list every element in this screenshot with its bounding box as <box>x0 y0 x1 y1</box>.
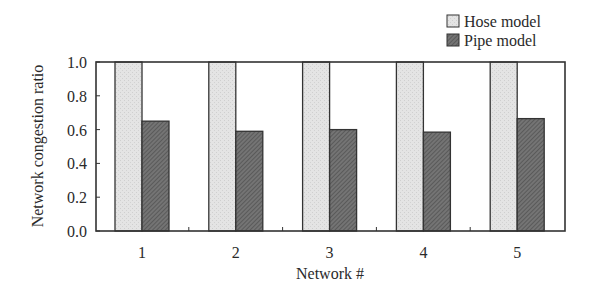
pipe-bar-4 <box>423 132 450 231</box>
pipe-bar-5 <box>517 119 544 231</box>
y-tick-label: 0.6 <box>67 122 87 139</box>
y-axis-label: Network congestion ratio <box>29 65 47 228</box>
x-tick-label: 4 <box>419 244 427 261</box>
y-tick-label: 1.0 <box>67 54 87 71</box>
y-tick-label: 0.4 <box>67 155 87 172</box>
hose-bar-1 <box>115 62 142 231</box>
hose-bar-3 <box>303 62 330 231</box>
y-axis-ticks: 0.00.20.40.60.81.0 <box>67 54 100 240</box>
legend: Hose modelPipe model <box>447 13 541 50</box>
pipe-bar-2 <box>236 131 263 231</box>
x-axis-label: Network # <box>296 265 364 282</box>
x-tick-label: 1 <box>138 244 146 261</box>
pipe-bar-3 <box>330 130 357 231</box>
legend-label: Pipe model <box>464 32 537 50</box>
pipe-bar-1 <box>142 121 169 231</box>
legend-label: Hose model <box>464 13 541 30</box>
hose-bar-5 <box>490 62 517 231</box>
x-axis-ticks: 12345 <box>138 227 521 261</box>
bars <box>115 62 544 231</box>
hose-legend-swatch <box>447 15 459 27</box>
bar-chart: 0.00.20.40.60.81.0 12345 Network # Netwo… <box>0 0 594 297</box>
y-tick-label: 0.0 <box>67 223 87 240</box>
pipe-legend-swatch <box>447 34 459 46</box>
hose-bar-4 <box>396 62 423 231</box>
x-tick-label: 5 <box>513 244 521 261</box>
y-tick-label: 0.8 <box>67 88 87 105</box>
x-tick-label: 2 <box>232 244 240 261</box>
hose-bar-2 <box>209 62 236 231</box>
y-tick-label: 0.2 <box>67 189 87 206</box>
x-tick-label: 3 <box>326 244 334 261</box>
